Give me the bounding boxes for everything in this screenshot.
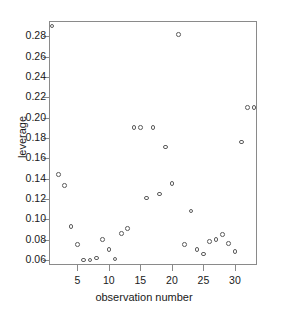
x-axis-tick xyxy=(140,265,141,271)
y-axis-tick-label: 0.14 xyxy=(26,172,46,184)
y-axis-tick-label: 0.28 xyxy=(26,29,46,41)
x-axis-tick xyxy=(235,265,236,271)
x-axis-tick-label: 20 xyxy=(160,274,184,286)
x-axis-tick xyxy=(172,265,173,271)
y-axis-tick-label: 0.16 xyxy=(26,151,46,163)
y-axis-tick-label: 0.22 xyxy=(26,90,46,102)
plot-frame xyxy=(49,21,257,265)
x-axis-tick-label: 5 xyxy=(65,274,89,286)
x-axis-tick xyxy=(203,265,204,271)
y-axis-tick-label: 0.10 xyxy=(26,212,46,224)
x-axis-tick xyxy=(109,265,110,271)
y-axis-tick-label: 0.26 xyxy=(26,50,46,62)
y-axis-tick-label: 0.24 xyxy=(26,70,46,82)
x-axis-tick-label: 25 xyxy=(191,274,215,286)
x-axis-tick-label: 30 xyxy=(223,274,247,286)
y-axis-title: leverage xyxy=(16,97,28,177)
y-axis-tick-label: 0.12 xyxy=(26,192,46,204)
x-axis-title: observation number xyxy=(0,291,288,303)
y-axis-tick-label: 0.06 xyxy=(26,253,46,265)
x-axis-tick-label: 15 xyxy=(128,274,152,286)
leverage-scatter-plot: 0.060.080.100.120.140.160.180.200.220.24… xyxy=(0,0,288,315)
y-axis-tick-label: 0.20 xyxy=(26,111,46,123)
x-axis-tick xyxy=(77,265,78,271)
x-axis-tick-label: 10 xyxy=(97,274,121,286)
y-axis-tick-label: 0.08 xyxy=(26,233,46,245)
y-axis-tick-label: 0.18 xyxy=(26,131,46,143)
